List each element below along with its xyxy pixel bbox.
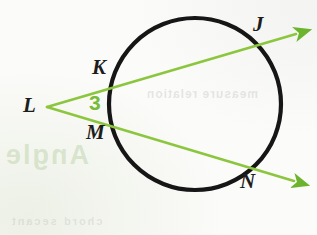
angle-label-3: 3 — [89, 92, 101, 113]
geometry-figure: Angle measure relation chord secant J K … — [0, 0, 317, 235]
point-label-k: K — [92, 57, 106, 78]
point-label-m: M — [86, 122, 105, 143]
secant-ray-LKJ — [47, 34, 296, 107]
secant-ray-LMN — [47, 107, 294, 181]
circle-shape — [109, 18, 281, 190]
point-label-l: L — [23, 95, 36, 116]
figure-canvas — [0, 0, 317, 235]
point-label-j: J — [253, 14, 264, 35]
point-label-n: N — [240, 171, 255, 192]
